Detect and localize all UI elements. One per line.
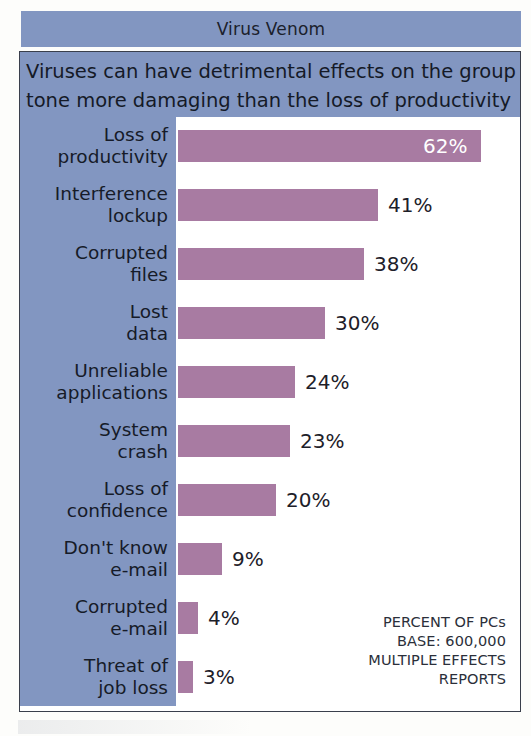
category-label-line-1: Don't know	[20, 537, 168, 559]
bar-value-label: 3%	[203, 665, 235, 689]
bar	[178, 425, 290, 457]
bar-wrapper: 9%	[178, 529, 520, 588]
category-label: Lostdata	[20, 301, 168, 345]
bar-row: 24%	[176, 353, 520, 412]
category-label-row: Threat ofjob loss	[20, 647, 176, 706]
bar-row: 38%	[176, 235, 520, 294]
footnote-line-2: BASE: 600,000	[368, 632, 506, 651]
bar-wrapper: 23%	[178, 412, 520, 471]
category-label-line-1: Interference	[20, 183, 168, 205]
category-label-line-1: Loss of	[20, 478, 168, 500]
footnote-line-4: REPORTS	[368, 670, 506, 689]
category-label: Interferencelockup	[20, 183, 168, 227]
category-label-row: Corruptede-mail	[20, 588, 176, 647]
bar	[178, 602, 198, 634]
category-label: Don't knowe-mail	[20, 537, 168, 581]
category-label: Loss ofconfidence	[20, 478, 168, 522]
bar-wrapper: 20%	[178, 470, 520, 529]
category-label-row: Don't knowe-mail	[20, 529, 176, 588]
bar	[178, 248, 364, 280]
category-label-line-1: System	[20, 419, 168, 441]
bar-row: 30%	[176, 294, 520, 353]
category-label: Corruptede-mail	[20, 596, 168, 640]
category-label: Threat ofjob loss	[20, 655, 168, 699]
category-label-line-2: e-mail	[20, 559, 168, 581]
bar-row: 20%	[176, 470, 520, 529]
category-label-line-1: Loss of	[20, 124, 168, 146]
chart-frame: Viruses can have detrimental effects on …	[19, 51, 521, 712]
bar-value-label: 41%	[388, 193, 432, 217]
footnote-line-1: PERCENT OF PCs	[368, 613, 506, 632]
chart-title-bar: Virus Venom	[21, 11, 521, 47]
bar-wrapper: 38%	[178, 235, 520, 294]
bar	[178, 661, 193, 693]
bar-row: 23%	[176, 412, 520, 471]
bar-value-label: 30%	[335, 311, 379, 335]
bar-wrapper: 41%	[178, 176, 520, 235]
category-label-row: Lostdata	[20, 294, 176, 353]
category-label-row: Systemcrash	[20, 412, 176, 471]
bar	[178, 307, 325, 339]
chart-footnote: PERCENT OF PCs BASE: 600,000 MULTIPLE EF…	[368, 613, 506, 689]
bar-value-label: 4%	[208, 606, 240, 630]
category-label-line-1: Lost	[20, 301, 168, 323]
category-label-row: Loss ofproductivity	[20, 117, 176, 176]
bar	[178, 189, 378, 221]
bar-value-label: 62%	[423, 134, 467, 158]
category-label-line-2: files	[20, 264, 168, 286]
category-label: Systemcrash	[20, 419, 168, 463]
category-label-column: Loss ofproductivityInterferencelockupCor…	[20, 117, 176, 706]
bar-wrapper: 30%	[178, 294, 520, 353]
chart-page: Virus Venom Viruses can have detrimental…	[0, 0, 531, 736]
category-label-line-2: applications	[20, 382, 168, 404]
bar-value-label: 23%	[300, 429, 344, 453]
category-label-line-1: Corrupted	[20, 596, 168, 618]
category-label-line-2: productivity	[20, 146, 168, 168]
category-label-line-2: data	[20, 323, 168, 345]
category-label-line-1: Threat of	[20, 655, 168, 677]
category-label-row: Unreliableapplications	[20, 353, 176, 412]
bar-wrapper: 24%	[178, 353, 520, 412]
bar	[178, 366, 295, 398]
bar-row: 62%	[176, 117, 520, 176]
bar-row: 41%	[176, 176, 520, 235]
category-label-line-2: crash	[20, 441, 168, 463]
bar	[178, 484, 276, 516]
category-label-line-1: Corrupted	[20, 242, 168, 264]
category-label: Unreliableapplications	[20, 360, 168, 404]
page-title: Virus Venom	[217, 19, 326, 39]
chart-subtitle-banner: Viruses can have detrimental effects on …	[20, 52, 520, 117]
category-label-row: Interferencelockup	[20, 176, 176, 235]
bar-value-label: 20%	[286, 488, 330, 512]
category-label-line-2: job loss	[20, 677, 168, 699]
category-label-line-1: Unreliable	[20, 360, 168, 382]
category-label-line-2: e-mail	[20, 618, 168, 640]
scan-artifact	[18, 720, 318, 734]
bar-value-label: 9%	[232, 547, 264, 571]
bar-wrapper: 62%	[178, 117, 520, 176]
bar-row: 9%	[176, 529, 520, 588]
footnote-line-3: MULTIPLE EFFECTS	[368, 651, 506, 670]
subtitle-line-1: Viruses can have detrimental effects on …	[26, 57, 514, 86]
category-label-row: Corruptedfiles	[20, 235, 176, 294]
bar-value-label: 24%	[305, 370, 349, 394]
category-label: Loss ofproductivity	[20, 124, 168, 168]
category-label: Corruptedfiles	[20, 242, 168, 286]
category-label-row: Loss ofconfidence	[20, 470, 176, 529]
category-label-line-2: confidence	[20, 500, 168, 522]
bar-value-label: 38%	[374, 252, 418, 276]
category-label-line-2: lockup	[20, 205, 168, 227]
bar	[178, 543, 222, 575]
subtitle-line-2: tone more damaging than the loss of prod…	[26, 86, 514, 115]
